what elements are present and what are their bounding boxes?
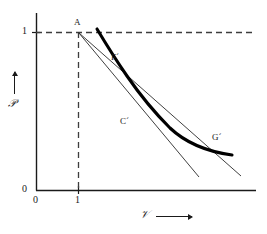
chord-line-a-to-g bbox=[79, 33, 242, 177]
figure-container: 1 0 1 0 A F´ C´ G´ 𝒫 𝒱 bbox=[0, 0, 267, 234]
y-axis-title-group: 𝒫 bbox=[4, 72, 26, 118]
x-axis-title: 𝒱 bbox=[140, 209, 149, 220]
x-tick-label-zero: 0 bbox=[33, 195, 38, 205]
y-axis-arrow-icon bbox=[14, 72, 15, 94]
x-axis-arrow-icon bbox=[156, 216, 192, 217]
y-tick-label-zero: 0 bbox=[22, 184, 27, 194]
tangent-line-a-to-c bbox=[79, 33, 200, 178]
point-label-f-prime: F´ bbox=[111, 53, 119, 62]
point-label-a: A bbox=[74, 18, 81, 27]
y-axis-title: 𝒫 bbox=[8, 98, 16, 109]
point-label-c-prime: C´ bbox=[120, 117, 129, 126]
y-tick-label-one: 1 bbox=[22, 26, 27, 36]
point-label-g-prime: G´ bbox=[212, 133, 222, 142]
x-tick-label-one: 1 bbox=[75, 195, 80, 205]
plot-canvas bbox=[0, 0, 267, 234]
